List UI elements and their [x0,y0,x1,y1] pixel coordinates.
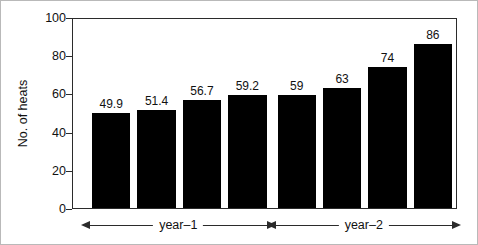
bar-value-label: 74 [381,51,394,65]
x-axis-span-group: year–1year–2 [1,214,478,242]
span-arrow-1: year–1 [81,214,276,236]
bar-value-label: 51.4 [145,94,168,108]
y-axis-tick-label: 60 [26,86,66,102]
span-label: year–2 [339,214,389,236]
y-axis-tick-label: 40 [26,125,66,141]
bar: 49.9 [92,113,130,208]
arrow-left-icon [81,221,90,229]
y-axis-tick-group: 020406080100 [1,18,66,209]
bar: 51.4 [137,110,175,208]
y-axis-tick-label: 20 [26,163,66,179]
chart-figure: No. of heats 020406080100 49.951.456.759… [0,0,478,245]
bar: 63 [323,88,361,208]
plot-area: 49.951.456.759.259637486 [72,18,457,209]
bar-value-label: 59.2 [236,79,259,93]
arrow-left-icon [267,221,276,229]
y-axis-tick [66,209,72,210]
bar: 59.2 [228,95,266,208]
bar-value-label: 56.7 [190,84,213,98]
bar-value-label: 49.9 [100,97,123,111]
arrow-right-icon [452,221,461,229]
bar: 74 [368,67,406,208]
bar-value-label: 63 [335,72,348,86]
y-axis-tick-label: 80 [26,48,66,64]
bar: 59 [278,95,316,208]
span-label: year–1 [153,214,203,236]
y-axis-tick-label: 100 [26,10,66,26]
bar-value-label: 86 [426,28,439,42]
span-arrow-2: year–2 [267,214,462,236]
bar: 86 [414,44,452,208]
bar-value-label: 59 [290,79,303,93]
bar: 56.7 [183,100,221,208]
